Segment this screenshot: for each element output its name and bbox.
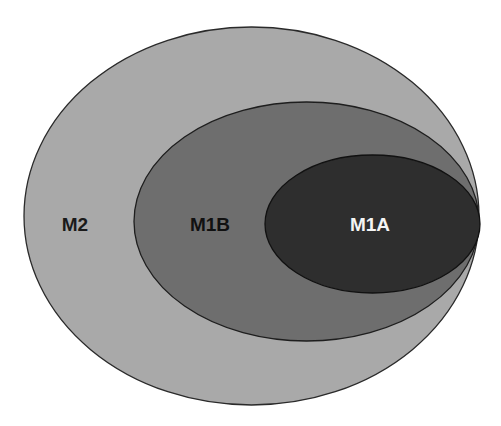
region-m1b-label: M1B (190, 214, 230, 235)
region-m1a-label: M1A (350, 214, 390, 235)
nested-ellipse-diagram: M2 M1B M1A (0, 0, 501, 426)
region-m2-label: M2 (62, 214, 88, 235)
